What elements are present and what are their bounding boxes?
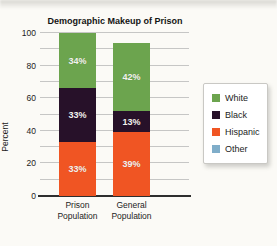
segment-value-label: 13% (122, 117, 140, 127)
x-category-label: General Population (101, 200, 163, 221)
segment-value-label: 33% (68, 164, 86, 174)
legend-item-hispanic: Hispanic (212, 127, 261, 137)
bar-segment-black: 33% (59, 88, 96, 142)
y-tick-label: 80 (14, 61, 36, 71)
legend-label: White (225, 93, 248, 103)
stacked-bar: 42%13%39% (113, 43, 150, 196)
stacked-bar: 34%33%33% (59, 33, 96, 196)
y-tick-label: 0 (14, 191, 36, 201)
bar-segment-white: 42% (113, 43, 150, 111)
y-tick-label: 100 (14, 28, 36, 38)
bar-segment-hispanic: 39% (113, 132, 150, 196)
legend-label: Hispanic (225, 127, 260, 137)
segment-value-label: 39% (122, 159, 140, 169)
legend-item-other: Other (212, 144, 261, 154)
segment-value-label: 42% (122, 72, 140, 82)
segment-value-label: 33% (68, 110, 86, 120)
y-tick-label: 60 (14, 93, 36, 103)
legend-swatch-icon (212, 94, 220, 102)
legend-label: Black (225, 110, 247, 120)
chart-figure: Demographic Makeup of Prison Percent 34%… (0, 0, 277, 246)
chart-title: Demographic Makeup of Prison (30, 16, 200, 26)
legend-swatch-icon (212, 145, 220, 153)
y-axis-title: Percent (0, 112, 12, 162)
plot-area: 34%33%33%42%13%39% (40, 33, 189, 196)
bar-segment-hispanic: 33% (59, 142, 96, 196)
legend-swatch-icon (212, 128, 220, 136)
legend-swatch-icon (212, 111, 220, 119)
legend-label: Other (225, 144, 248, 154)
segment-value-label: 34% (68, 56, 86, 66)
bar-segment-black: 13% (113, 111, 150, 132)
legend-item-black: Black (212, 110, 261, 120)
y-tick-label: 20 (14, 158, 36, 168)
x-category-label: Prison Population (47, 200, 109, 221)
legend-item-white: White (212, 93, 261, 103)
scan-smudge-artifact (0, 0, 277, 9)
legend-box: WhiteBlackHispanicOther (203, 83, 268, 164)
y-tick-label: 40 (14, 126, 36, 136)
bar-segment-white: 34% (59, 33, 96, 88)
